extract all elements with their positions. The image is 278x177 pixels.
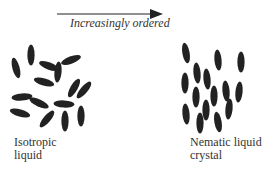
molecule-ellipse	[213, 49, 222, 71]
molecule-ellipse	[237, 52, 244, 73]
molecule-ellipse	[28, 95, 50, 110]
molecule-ellipse	[60, 53, 82, 67]
molecule-ellipse	[202, 68, 211, 90]
molecule-ellipse	[192, 87, 199, 108]
molecule-ellipse	[9, 107, 31, 119]
molecule-ellipse	[221, 80, 230, 102]
molecule-ellipse	[61, 111, 68, 132]
molecule-ellipse	[33, 76, 55, 88]
molecule-ellipse	[213, 111, 224, 133]
molecule-ellipse	[11, 92, 33, 101]
nematic-molecules	[181, 42, 245, 133]
isotropic-molecules	[9, 45, 94, 132]
molecule-ellipse	[53, 61, 62, 83]
molecule-ellipse	[181, 73, 188, 94]
molecule-ellipse	[181, 103, 190, 125]
nematic-label-line2: crystal	[190, 149, 262, 162]
molecule-ellipse	[181, 42, 192, 64]
molecule-ellipse	[202, 100, 209, 121]
isotropic-label: Isotropic liquid	[14, 136, 57, 162]
molecule-ellipse	[210, 86, 217, 107]
nematic-label: Nematic liquid crystal	[190, 136, 262, 162]
molecule-ellipse	[196, 113, 203, 134]
molecule-ellipse	[53, 100, 74, 108]
molecule-ellipse	[192, 62, 201, 84]
molecule-ellipse	[224, 98, 233, 120]
molecule-ellipse	[77, 106, 84, 127]
isotropic-label-line2: liquid	[14, 149, 57, 162]
molecule-ellipse	[234, 81, 243, 103]
molecule-ellipse	[10, 57, 22, 79]
molecule-ellipse	[27, 45, 34, 66]
molecule-ellipse	[37, 109, 56, 130]
arrow-label: Increasingly ordered	[70, 16, 170, 31]
